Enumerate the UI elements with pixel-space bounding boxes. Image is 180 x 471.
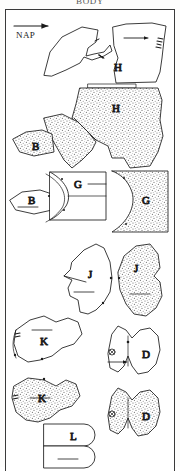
piece-h-wing-plain <box>44 27 112 76</box>
piece-label-j-stippled: J <box>134 262 139 274</box>
piece-label-d-plain: D <box>142 348 150 360</box>
piece-label-h-stippled: H <box>112 102 120 114</box>
piece-label-l-plain: L <box>70 430 77 442</box>
piece-label-h-plain: H <box>114 61 122 73</box>
piece-k-stippled: K <box>12 378 80 422</box>
registration-mark-icon <box>109 349 115 355</box>
piece-g-plain: G <box>46 172 106 222</box>
piece-label-b-stippled: B <box>32 140 39 152</box>
piece-b-stippled: B <box>13 130 54 156</box>
piece-label-k-stippled: K <box>38 392 46 404</box>
piece-b-plain: B <box>10 190 52 214</box>
piece-g-stippled: G <box>112 171 168 232</box>
piece-k-plain: K <box>13 316 82 362</box>
piece-label-d-stippled: D <box>142 410 150 422</box>
piece-j-plain: J <box>64 244 112 314</box>
piece-j-stippled: J <box>118 244 162 316</box>
piece-d-plain: D <box>108 326 160 374</box>
piece-label-b-plain: B <box>28 194 35 206</box>
registration-mark-icon-2 <box>109 411 115 417</box>
piece-label-k-plain: K <box>40 335 48 347</box>
piece-label-g-stippled: G <box>142 194 150 206</box>
piece-label-j-plain: J <box>88 268 93 280</box>
piece-d-stippled: D <box>108 388 160 436</box>
piece-l-plain: L <box>44 424 95 468</box>
piece-label-g-plain: G <box>74 178 82 190</box>
